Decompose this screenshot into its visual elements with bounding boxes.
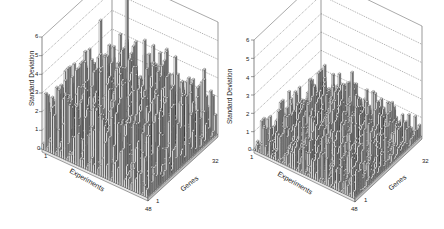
z-axis-title: Standard Deviation xyxy=(226,69,233,124)
z-tick-1: 1 xyxy=(35,126,38,132)
y-tick-end: 32 xyxy=(422,158,429,164)
z-tick-4: 4 xyxy=(35,71,38,77)
y-tick-start: 1 xyxy=(364,197,367,203)
y-tick-end: 32 xyxy=(212,158,219,164)
z-tick-3: 3 xyxy=(246,93,249,99)
z-tick-3: 3 xyxy=(35,89,38,95)
chart-panel-low-variance: Standard Deviation 6 5 4 3 2 1 0 1 48 1 … xyxy=(222,0,444,229)
chart-panel-high-variance: Standard Deviation 6 5 4 3 2 1 0 1 48 1 … xyxy=(0,0,222,229)
z-tick-6: 6 xyxy=(246,37,249,43)
z-tick-6: 6 xyxy=(35,33,38,39)
z-tick-2: 2 xyxy=(35,108,38,114)
z-tick-0: 0 xyxy=(37,145,40,151)
z-tick-5: 5 xyxy=(246,56,249,62)
x-tick-end: 48 xyxy=(145,206,152,212)
bar3d-plot xyxy=(0,0,222,229)
bar3d-plot xyxy=(222,0,444,229)
x-tick-start: 1 xyxy=(44,153,47,159)
x-tick-start: 1 xyxy=(250,154,253,160)
z-tick-4: 4 xyxy=(246,75,249,81)
z-axis-title: Standard Deviation xyxy=(28,51,35,106)
z-tick-0: 0 xyxy=(248,146,251,152)
z-tick-5: 5 xyxy=(35,52,38,58)
bars xyxy=(42,0,217,198)
z-tick-1: 1 xyxy=(246,129,249,135)
x-tick-end: 48 xyxy=(351,206,358,212)
z-tick-2: 2 xyxy=(246,111,249,117)
y-tick-start: 1 xyxy=(156,198,159,204)
